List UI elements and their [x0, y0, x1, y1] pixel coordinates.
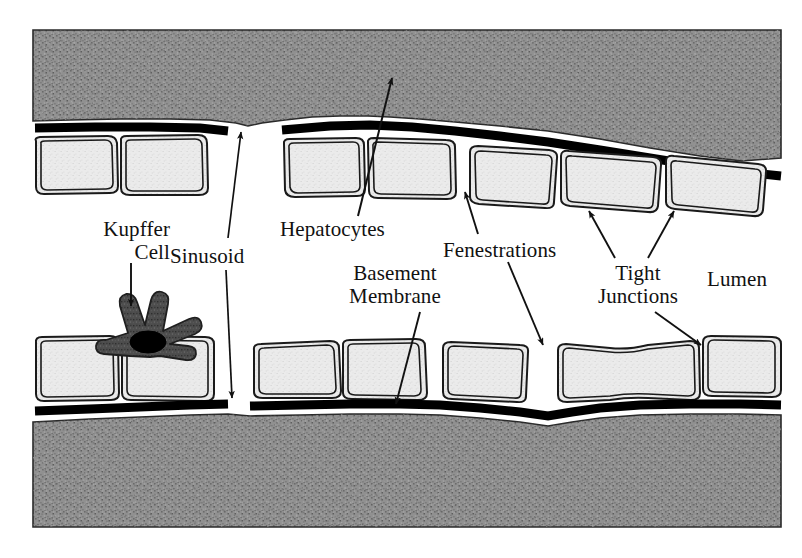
endothelial-cell-bottom-5: [443, 342, 528, 402]
label-hepatocytes: Hepatocytes: [280, 218, 385, 242]
label-fenestrations: Fenestrations: [443, 239, 556, 263]
endothelial-cell-bottom-4: [343, 339, 427, 400]
label-lumen: Lumen: [707, 268, 767, 292]
kupffer-cell: [96, 292, 202, 360]
kupffer-nucleus: [130, 331, 166, 353]
label-sinusoid: Sinusoid: [170, 245, 244, 269]
endothelial-cell-top-2: [121, 135, 208, 195]
endothelial-cell-top-6: [561, 151, 661, 212]
endothelial-cell-top-3: [284, 138, 365, 197]
endothelial-cell-bottom-3: [254, 341, 341, 398]
label-basement-membrane: Basement Membrane: [330, 262, 460, 308]
endothelial-cell-bottom-6: [558, 341, 700, 402]
hepatocyte-tissue-bottom: [33, 414, 781, 527]
liver-sinusoid-figure: Kupffer Cell Sinusoid Hepatocytes Baseme…: [0, 0, 802, 558]
fenestrations-leader: [465, 192, 543, 345]
label-kupffer-cell: Kupffer Cell: [78, 218, 170, 264]
endothelial-cell-top-4: [368, 138, 456, 199]
label-tight-junctions: Tight Junctions: [590, 262, 686, 308]
endothelial-cell-top-1: [36, 136, 119, 194]
endothelial-cell-top-5: [470, 146, 557, 208]
endothelial-cell-top-7: [666, 156, 766, 216]
endothelial-cell-bottom-7: [703, 336, 781, 397]
